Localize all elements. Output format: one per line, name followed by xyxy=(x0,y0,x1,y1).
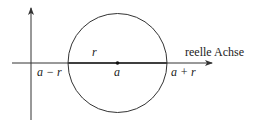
left-point-label: a − r xyxy=(37,65,62,79)
radius-label: r xyxy=(92,45,97,59)
axis-label: reelle Achse xyxy=(185,45,244,59)
complex-disk-diagram: r a a − r a + r reelle Achse xyxy=(0,0,253,121)
center-label: a xyxy=(114,65,120,79)
right-point-label: a + r xyxy=(171,65,196,79)
diagram-canvas: r a a − r a + r reelle Achse xyxy=(0,0,253,121)
